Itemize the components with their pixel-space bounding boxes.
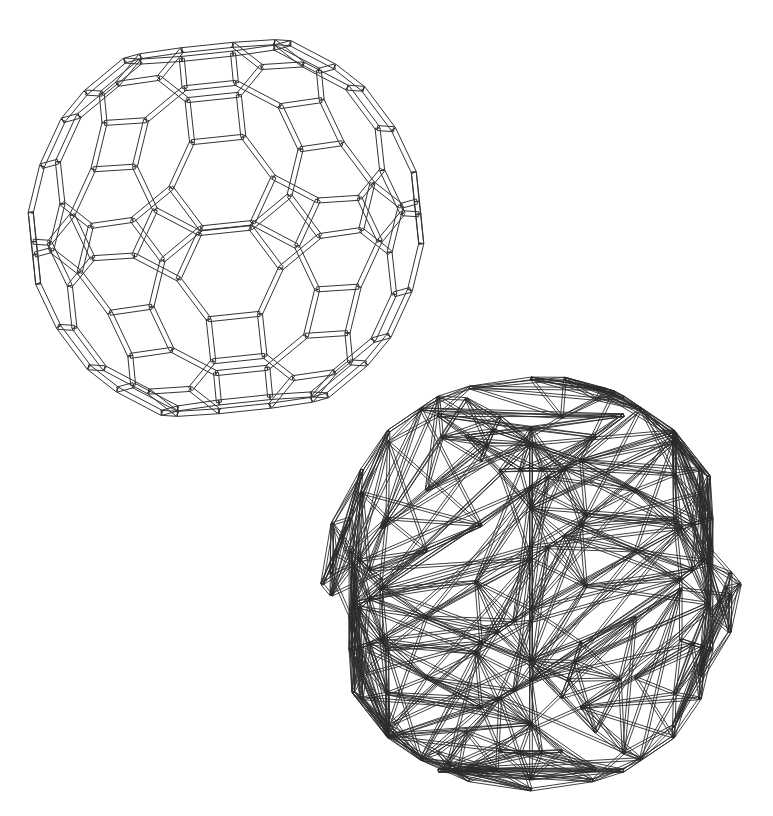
polyhedra-plate (0, 0, 773, 816)
drawing-canvas: Truncated icosidodecahedron Geodesic tri… (0, 0, 773, 816)
